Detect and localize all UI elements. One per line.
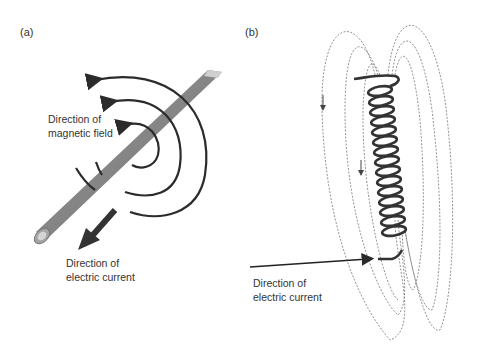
magnetic-field-label-line1: Direction of <box>48 112 113 126</box>
magnetic-field-label-line2: magnetic field <box>48 126 113 140</box>
current-label-b: Direction of electric current <box>253 276 322 304</box>
conductor-rod <box>31 70 222 247</box>
panel-b-label: (b) <box>245 26 258 38</box>
current-arrow-b <box>250 259 368 267</box>
current-label-a-line2: electric current <box>66 270 135 284</box>
figure-canvas <box>0 0 491 353</box>
solenoid-field-lines <box>322 25 453 340</box>
current-label-b-line1: Direction of <box>253 276 322 290</box>
current-label-a: Direction of electric current <box>66 256 135 284</box>
current-arrow-a <box>78 210 115 250</box>
current-label-a-line1: Direction of <box>66 256 135 270</box>
current-label-b-line2: electric current <box>253 290 322 304</box>
magnetic-field-label: Direction of magnetic field <box>48 112 113 140</box>
panel-a-label: (a) <box>20 26 33 38</box>
